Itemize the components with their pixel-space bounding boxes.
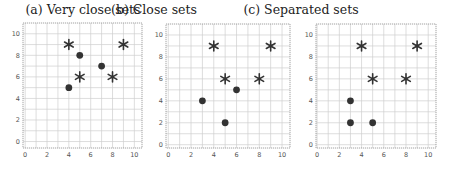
axes-frame [316,24,436,148]
tick-labels: 02468100246810 [305,31,433,159]
y-tick-label: 4 [309,97,313,105]
y-tick-label: 2 [309,119,313,127]
y-tick-label: 8 [309,53,313,61]
scatter-plot-c: 02468100246810 [0,0,450,169]
x-tick-label: 2 [337,151,341,159]
y-tick-label: 6 [309,75,313,83]
y-tick-label: 0 [309,141,313,149]
x-tick-label: 6 [382,151,386,159]
circle-marker [347,119,354,126]
x-tick-label: 10 [424,151,432,159]
panel-c: (c) Separated sets 02468100246810 [0,0,450,169]
circle-marker [347,97,354,104]
x-tick-label: 0 [315,151,319,159]
x-tick-label: 8 [404,151,408,159]
series-stars [357,41,421,84]
grid [316,24,436,148]
x-tick-label: 4 [359,151,363,159]
circle-marker [369,119,376,126]
y-tick-label: 10 [305,31,313,39]
